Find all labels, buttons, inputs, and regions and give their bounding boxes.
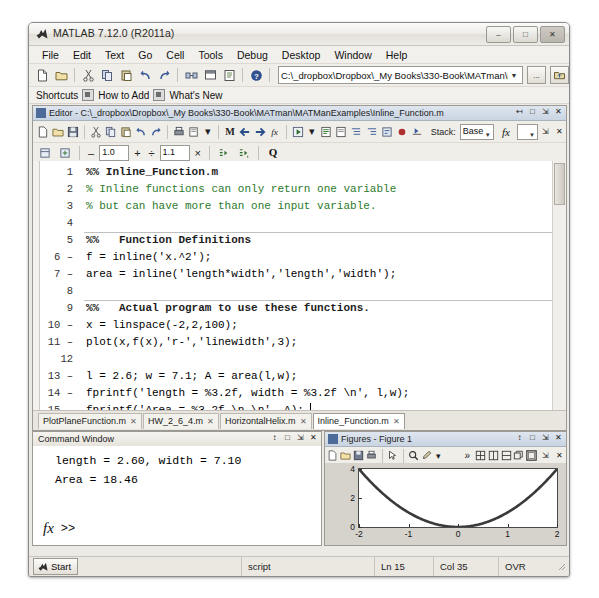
paste-icon[interactable] (119, 123, 133, 141)
editor-file-tab[interactable]: Inline_Function.m✕ (313, 413, 405, 429)
multiply-value-button[interactable]: × (192, 147, 204, 159)
layout-select[interactable]: ▼ (517, 124, 538, 140)
forward-icon[interactable] (253, 123, 267, 141)
undock-icon[interactable]: ↤ (515, 107, 524, 116)
code-line[interactable] (76, 215, 566, 232)
code-line[interactable]: plot(x,f(x),'r-','linewidth',3); (76, 334, 566, 351)
shortcut-whats-new[interactable]: What's New (169, 90, 222, 101)
code-line[interactable]: %% Function Definitions (76, 232, 566, 249)
code-line[interactable]: fprintf('length = %3.2f, width = %3.2f \… (76, 385, 566, 402)
copy-icon[interactable] (104, 123, 118, 141)
maximize-icon[interactable]: □ (528, 107, 537, 116)
redo-icon[interactable] (155, 66, 173, 84)
close-icon[interactable]: ✕ (554, 107, 563, 116)
dock-icon[interactable] (526, 448, 538, 463)
undock-icon[interactable]: ↕ (270, 433, 279, 442)
code-line[interactable]: l = 2.6; w = 7.1; A = area(l,w); (76, 368, 566, 385)
evaluate-cell-advance-icon[interactable] (235, 144, 253, 162)
browse-folder-button[interactable]: ... (527, 66, 546, 84)
save-figure-icon[interactable] (353, 448, 365, 463)
decrease-value-button[interactable]: – (85, 147, 97, 159)
figure-minimize-icon[interactable]: ⇲ (539, 451, 552, 460)
figure-close-icon[interactable]: ✕ (553, 451, 566, 460)
find-icon[interactable]: M (223, 123, 237, 141)
current-folder-path-input[interactable]: C:\_dropbox\Dropbox\_My Books\330-Book\M… (278, 66, 523, 84)
editor-minimize-icon[interactable]: ⇲ (539, 127, 552, 136)
scrollbar-thumb[interactable] (554, 163, 565, 205)
simulink-icon[interactable] (182, 66, 200, 84)
back-icon[interactable] (238, 123, 252, 141)
tile-grid-icon[interactable] (474, 448, 486, 463)
copy-icon[interactable] (98, 66, 116, 84)
profiler-icon[interactable] (220, 66, 238, 84)
print-figure-icon[interactable] (366, 448, 378, 463)
smart-indent-icon[interactable] (380, 123, 394, 141)
menu-file[interactable]: File (35, 48, 66, 62)
step-icon[interactable] (410, 123, 424, 141)
insert-cell-icon[interactable] (56, 144, 74, 162)
code-line[interactable]: x = linspace(-2,2,100); (76, 317, 566, 334)
maximize-icon[interactable]: □ (283, 433, 292, 442)
new-file-icon[interactable] (36, 123, 50, 141)
overflow-icon[interactable]: » (461, 450, 473, 461)
open-figure-icon[interactable] (340, 448, 352, 463)
code-lines[interactable]: %% Inline_Function.m% Inline functions c… (76, 161, 566, 410)
open-file-icon[interactable] (51, 123, 65, 141)
close-button[interactable]: ✕ (540, 26, 565, 43)
quick-find-icon[interactable]: Q (264, 144, 282, 162)
help-icon[interactable]: ? (247, 66, 265, 84)
resize-grip-icon[interactable] (557, 562, 566, 571)
breakpoint-icon[interactable] (395, 123, 409, 141)
code-line[interactable]: % Inline functions can only return one v… (76, 181, 566, 198)
tile-vertical-icon[interactable] (487, 448, 499, 463)
pointer-icon[interactable] (387, 448, 399, 463)
breakpoint-gutter[interactable] (33, 161, 40, 410)
run-icon[interactable] (291, 123, 305, 141)
indent-decrease-icon[interactable] (349, 123, 363, 141)
close-icon[interactable]: ✕ (554, 433, 563, 442)
stack-select[interactable]: Base ▼ (460, 124, 494, 140)
editor-file-tab[interactable]: HorizontalHelix.m✕ (220, 413, 312, 429)
editor-close-icon[interactable]: ✕ (553, 127, 566, 136)
close-icon[interactable]: ✕ (207, 417, 214, 426)
guide-icon[interactable] (201, 66, 219, 84)
menu-debug[interactable]: Debug (230, 48, 275, 62)
maximize-button[interactable]: □ (513, 26, 538, 43)
new-figure-icon[interactable] (327, 448, 339, 463)
cell-mode-icon[interactable] (36, 144, 54, 162)
chevron-down-icon[interactable]: ▼ (508, 72, 520, 79)
undock-icon[interactable]: ↕ (515, 433, 524, 442)
menu-cell[interactable]: Cell (159, 48, 191, 62)
divide-value-button[interactable]: ÷ (146, 147, 158, 159)
editor-scrollbar-vertical[interactable] (552, 161, 566, 410)
menu-desktop[interactable]: Desktop (275, 48, 328, 62)
shortcut-how-to-add[interactable]: How to Add (98, 90, 149, 101)
close-icon[interactable]: ✕ (309, 433, 318, 442)
close-icon[interactable]: ✕ (130, 417, 137, 426)
print-icon[interactable] (172, 123, 186, 141)
code-line[interactable]: fprintf('Area = %3.2f \n \n', A); (76, 402, 566, 410)
code-line[interactable]: f = inline('x.^2'); (76, 249, 566, 266)
brush-icon[interactable] (421, 448, 433, 463)
float-icon[interactable] (513, 448, 525, 463)
undo-icon[interactable] (136, 66, 154, 84)
close-icon[interactable]: ✕ (393, 417, 400, 426)
paste-icon[interactable] (117, 66, 135, 84)
menu-go[interactable]: Go (131, 48, 159, 62)
editor-file-tab[interactable]: PlotPlaneFunction.m✕ (38, 413, 142, 429)
start-button[interactable]: Start (33, 558, 78, 575)
cut-icon[interactable] (89, 123, 103, 141)
zoom-icon[interactable] (408, 448, 420, 463)
code-line[interactable]: area = inline('length*width','length','w… (76, 266, 566, 283)
minimize-icon[interactable]: ⇲ (541, 433, 550, 442)
menu-tools[interactable]: Tools (191, 48, 230, 62)
command-window-output[interactable]: length = 2.60, width = 7.10 Area = 18.46… (33, 446, 321, 545)
cut-icon[interactable] (79, 66, 97, 84)
comment-icon[interactable] (319, 123, 333, 141)
divide-value-input[interactable]: 1.0 (99, 145, 129, 161)
evaluate-cell-icon[interactable] (215, 144, 233, 162)
code-area[interactable]: 123456 –7 –8910 –11 –1213 –14 –15 – %% I… (33, 161, 566, 410)
function-browser-icon[interactable]: fx (268, 123, 282, 141)
menu-window[interactable]: Window (327, 48, 378, 62)
code-line[interactable]: %% Inline_Function.m (76, 164, 566, 181)
